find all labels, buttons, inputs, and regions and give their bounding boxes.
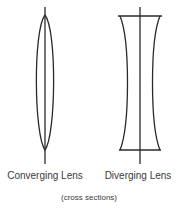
diverging-lens-left-surface <box>120 16 128 150</box>
caption: (cross sections) <box>61 193 117 202</box>
converging-lens <box>36 7 53 164</box>
diverging-lens-right-surface <box>153 16 161 150</box>
diverging-lens <box>118 7 162 164</box>
converging-lens-label: Converging Lens <box>7 170 83 181</box>
diverging-lens-label: Diverging Lens <box>105 170 172 181</box>
